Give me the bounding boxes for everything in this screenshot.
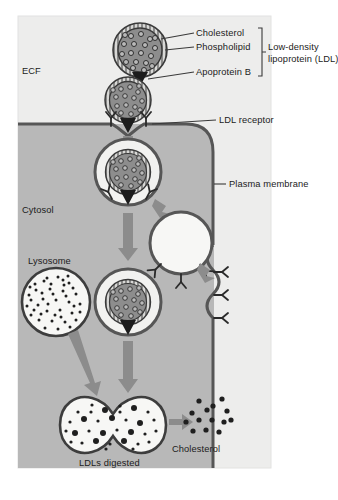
- callout-plasma-membrane-label: Plasma membrane: [229, 179, 309, 190]
- endocytic-vesicle: [95, 139, 161, 205]
- callout-ldl-name-line2: lipoprotein (LDL): [268, 54, 338, 65]
- ldl-containing-endosome: [95, 269, 161, 335]
- lysosome-label: Lysosome: [28, 256, 71, 267]
- ecf-region-label: ECF: [22, 66, 41, 77]
- callout-phospholipid-label: Phospholipid: [196, 42, 250, 53]
- callout-apoprotein-b-label: Apoprotein B: [196, 67, 251, 78]
- callout-ldl-receptor-label: LDL receptor: [219, 115, 274, 126]
- callout-cholesterol-label: Cholesterol: [196, 28, 244, 39]
- lysosome: [22, 268, 90, 336]
- released-cholesterol-label: Cholesterol: [172, 444, 220, 455]
- cytosol-region-label: Cytosol: [22, 205, 54, 216]
- callout-ldl-name-line1: Low-density: [268, 42, 319, 53]
- ldls-digested-label: LDLs digested: [79, 458, 140, 469]
